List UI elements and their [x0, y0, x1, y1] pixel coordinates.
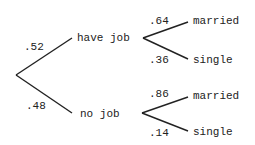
prob-have-job-married: .64: [149, 15, 169, 27]
probability-tree-diagram: .52 .48 have job no job .64 .36 .86 .14 …: [0, 0, 255, 145]
node-have-job: have job: [77, 32, 130, 44]
node-have-job-single: single: [193, 54, 233, 66]
prob-no-job-single: .14: [149, 127, 169, 139]
prob-have-job: .52: [24, 41, 44, 53]
node-no-job-married: married: [193, 90, 239, 102]
node-no-job-single: single: [193, 126, 233, 138]
node-have-job-married: married: [193, 15, 239, 27]
prob-no-job: .48: [26, 100, 46, 112]
prob-have-job-single: .36: [149, 54, 169, 66]
prob-no-job-married: .86: [149, 88, 169, 100]
node-no-job: no job: [80, 108, 120, 120]
